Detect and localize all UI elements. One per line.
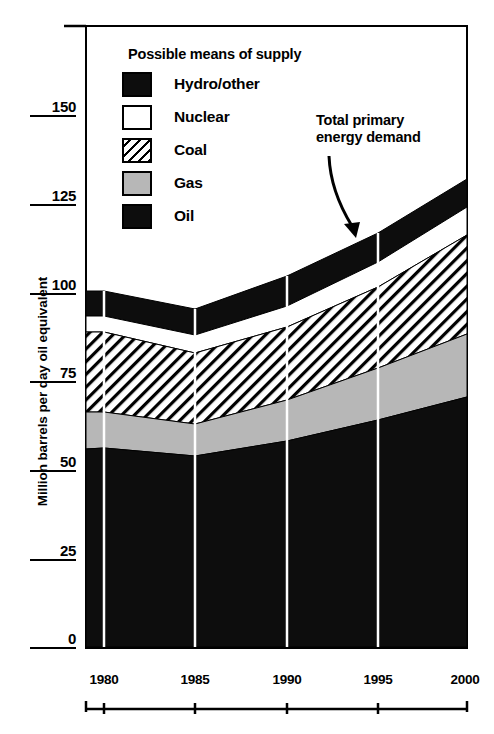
legend-item-oil[interactable]: Oil (122, 201, 372, 231)
x-tick-1980: 1980 (76, 673, 132, 687)
legend-label-gas: Gas (174, 174, 203, 192)
legend-item-hydro-other[interactable]: Hydro/other (122, 69, 372, 99)
legend-swatch-coal (122, 138, 152, 163)
x-tick-1995: 1995 (350, 673, 406, 687)
legend-item-gas[interactable]: Gas (122, 168, 372, 198)
legend-swatch-oil (122, 204, 152, 229)
annotation-total-primary-energy-demand: Total primary energy demand (316, 112, 421, 146)
legend-label-oil: Oil (174, 207, 194, 225)
x-tick-1985: 1985 (167, 673, 223, 687)
chart-canvas: Million barrels per day oil equivalent 1… (0, 0, 494, 734)
legend-label-hydro-other: Hydro/other (174, 75, 260, 93)
legend-swatch-gas (122, 171, 152, 196)
legend-swatch-nuclear (122, 105, 152, 130)
annotation-line-1: Total primary (316, 112, 421, 129)
legend-swatch-hydro-other (122, 72, 152, 97)
x-tick-1990: 1990 (259, 673, 315, 687)
legend-title: Possible means of supply (128, 46, 372, 62)
annotation-line-2: energy demand (316, 129, 421, 146)
legend-label-nuclear: Nuclear (174, 108, 229, 126)
x-tick-2000: 2000 (437, 673, 493, 687)
legend-label-coal: Coal (174, 141, 207, 159)
